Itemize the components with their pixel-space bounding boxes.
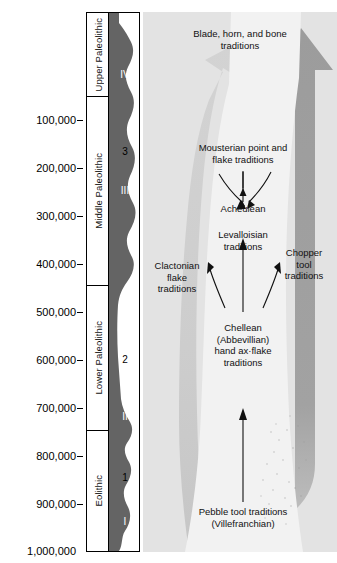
era-eolithic: Eolithic (87, 431, 109, 551)
label-chellean-line2: (Abbevillian) (165, 334, 321, 346)
axis-tick-200000: 200,000 (36, 163, 76, 174)
glacial-curve (109, 13, 141, 551)
label-chopper: Chopper tool traditions (271, 247, 337, 282)
label-mousterian-line2: flake traditions (153, 154, 333, 166)
glacial-curve-column: IV 3 III 2 II 1 I (109, 13, 141, 551)
axis-tick-800000: 800,000 (36, 451, 76, 462)
axis-tick-100000: 100,000 (36, 115, 76, 126)
label-blade-line1: Blade, horn, and bone (143, 28, 337, 40)
glacial-marker-1: 1 (109, 472, 141, 483)
era-column: Upper Paleolithic Middle Paleolithic Low… (87, 13, 109, 551)
label-chellean-line4: traditions (165, 357, 321, 369)
era-middle-paleolithic: Middle Paleolithic (87, 97, 109, 286)
label-acheulean-line1: Acheulean (183, 203, 303, 215)
axis-tick-500000: 500,000 (36, 307, 76, 318)
label-acheulean: Acheulean (183, 203, 303, 215)
label-mousterian: Mousterian point and flake traditions (153, 142, 333, 165)
era-label: Upper Paleolithic (93, 18, 104, 92)
traditions-panel: EUROPE AFRICA ASIA Blade, horn, and bone… (143, 12, 337, 552)
label-pebble-line2: (Villefranchian) (153, 518, 333, 530)
axis-tick-600000: 600,000 (36, 355, 76, 366)
axis-tick-700000: 700,000 (36, 403, 76, 414)
label-clactonian-line2: flake (143, 272, 217, 284)
label-clactonian-line1: Clactonian (143, 260, 217, 272)
glacial-marker-II: II (109, 411, 141, 422)
label-pebble-line1: Pebble tool traditions (153, 506, 333, 518)
label-blade-traditions: Blade, horn, and bone traditions (143, 28, 337, 51)
glacial-marker-IV: IV (109, 69, 141, 80)
label-mousterian-line1: Mousterian point and (153, 142, 333, 154)
axis-tick-300000: 300,000 (36, 211, 76, 222)
label-chellean-line3: hand ax·flake (165, 345, 321, 357)
glacial-marker-I: I (109, 516, 141, 527)
label-levalloisian-line1: Levalloisian (183, 229, 303, 241)
label-pebble-tool: Pebble tool traditions (Villefranchian) (153, 506, 333, 529)
label-chopper-line3: traditions (271, 270, 337, 282)
glacial-marker-3: 3 (109, 146, 141, 157)
era-label: Eolithic (93, 475, 104, 506)
glacial-marker-III: III (109, 185, 141, 196)
label-chellean-line1: Chellean (165, 322, 321, 334)
time-axis: 100,000 200,000 300,000 400,000 500,000 … (0, 0, 86, 563)
era-label: Lower Paleolithic (93, 321, 104, 395)
era-lower-paleolithic: Lower Paleolithic (87, 286, 109, 431)
era-upper-paleolithic: Upper Paleolithic (87, 13, 109, 97)
axis-tick-400000: 400,000 (36, 259, 76, 270)
label-clactonian: Clactonian flake traditions (143, 260, 217, 295)
glacial-marker-2: 2 (109, 354, 141, 365)
label-blade-line2: traditions (143, 40, 337, 52)
label-chopper-line2: tool (271, 259, 337, 271)
label-clactonian-line3: traditions (143, 283, 217, 295)
axis-tick-900000: 900,000 (36, 499, 76, 510)
label-chopper-line1: Chopper (271, 247, 337, 259)
label-chellean: Chellean (Abbevillian) hand ax·flake tra… (165, 322, 321, 368)
era-label: Middle Paleolithic (93, 153, 104, 229)
chronology-chart: Upper Paleolithic Middle Paleolithic Low… (86, 12, 140, 552)
axis-tick-1000000: 1,000,000 (27, 546, 76, 557)
